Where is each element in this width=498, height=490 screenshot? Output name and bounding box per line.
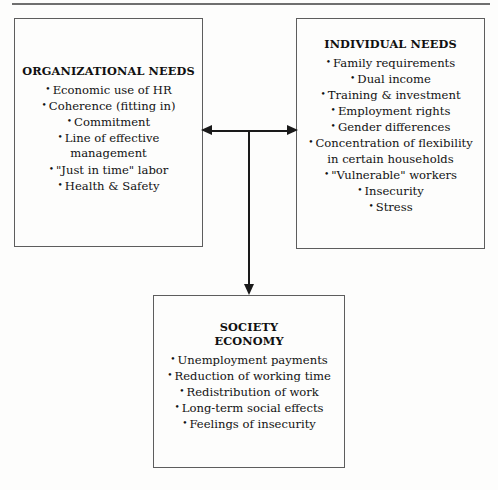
bullet-icon: • xyxy=(58,180,65,190)
list-item: •Long-term social effects xyxy=(154,400,344,416)
box-organizational-content: ORGANIZATIONAL NEEDS •Economic use of HR… xyxy=(15,64,202,194)
arrowhead-left-icon xyxy=(201,125,212,135)
list-item-label: Dual income xyxy=(357,72,431,86)
diagram-canvas: ORGANIZATIONAL NEEDS •Economic use of HR… xyxy=(0,0,498,490)
list-item: •Unemployment payments xyxy=(154,352,344,368)
box-individual-title: INDIVIDUAL NEEDS xyxy=(297,37,484,51)
list-item: •Family requirements xyxy=(297,55,484,71)
list-item-label-continued: in certain households xyxy=(303,152,478,168)
arrowhead-right-icon xyxy=(287,125,298,135)
vertical-connector-line xyxy=(248,131,250,286)
list-item-label: Feelings of insecurity xyxy=(189,417,315,431)
box-society-title: SOCIETY ECONOMY xyxy=(154,320,344,348)
list-item: •Redistribution of work xyxy=(154,384,344,400)
list-item-label: Concentration of flexibility xyxy=(316,136,473,150)
list-item: •Dual income xyxy=(297,71,484,87)
list-item: •Line of effective management xyxy=(15,130,202,162)
list-item: •Commitment xyxy=(15,114,202,130)
arrowhead-down-icon xyxy=(244,284,254,295)
list-item-label: Insecurity xyxy=(365,184,424,198)
bullet-icon: • xyxy=(170,354,177,364)
bullet-icon: • xyxy=(49,164,56,174)
list-item: •Feelings of insecurity xyxy=(154,416,344,432)
list-item-label: Stress xyxy=(376,200,413,214)
list-item-label: Economic use of HR xyxy=(53,83,172,97)
list-item-label: Redistribution of work xyxy=(186,385,318,399)
list-item: •Employment rights xyxy=(297,103,484,119)
box-organizational-title-text: ORGANIZATIONAL NEEDS xyxy=(15,64,202,78)
list-item-label: Family requirements xyxy=(333,56,455,70)
box-organizational-needs: ORGANIZATIONAL NEEDS •Economic use of HR… xyxy=(14,18,203,247)
list-item: •Gender differences xyxy=(297,119,484,135)
bullet-icon: • xyxy=(331,105,338,115)
list-item-label: Long-term social effects xyxy=(182,401,324,415)
box-individual-content: INDIVIDUAL NEEDS •Family requirements •D… xyxy=(297,37,484,215)
box-society-title-line-2: ECONOMY xyxy=(154,334,344,348)
bullet-icon: • xyxy=(331,121,338,131)
list-item: •Health & Safety xyxy=(15,178,202,194)
top-rule-divider xyxy=(12,3,490,5)
list-item-label: Employment rights xyxy=(338,104,451,118)
box-organizational-title: ORGANIZATIONAL NEEDS xyxy=(15,64,202,78)
horizontal-connector-line xyxy=(206,130,294,132)
bullet-icon: • xyxy=(42,100,49,110)
list-item-label: Health & Safety xyxy=(65,179,160,193)
list-item: •Training & investment xyxy=(297,87,484,103)
bullet-icon: • xyxy=(357,185,364,195)
bullet-icon: • xyxy=(45,84,52,94)
bullet-icon: • xyxy=(67,116,74,126)
list-item-label: Reduction of working time xyxy=(174,369,330,383)
box-society-economy: SOCIETY ECONOMY •Unemployment payments •… xyxy=(153,295,345,468)
list-item-label: "Vulnerable" workers xyxy=(331,168,457,182)
bullet-icon: • xyxy=(368,201,375,211)
list-item-label: Coherence (fitting in) xyxy=(49,99,176,113)
box-individual-needs: INDIVIDUAL NEEDS •Family requirements •D… xyxy=(296,18,485,249)
list-item: •Concentration of flexibilityin certain … xyxy=(297,135,484,167)
box-society-content: SOCIETY ECONOMY •Unemployment payments •… xyxy=(154,320,344,432)
list-item-label: "Just in time" labor xyxy=(56,162,168,176)
list-item-label: Training & investment xyxy=(328,88,461,102)
list-item: •Stress xyxy=(297,199,484,215)
list-item: •"Just in time" labor xyxy=(15,162,202,178)
list-item: •Reduction of working time xyxy=(154,368,344,384)
box-individual-item-list: •Family requirements •Dual income •Train… xyxy=(297,55,484,215)
list-item: •"Vulnerable" workers xyxy=(297,167,484,183)
list-item: •Economic use of HR xyxy=(15,82,202,98)
list-item-label: Commitment xyxy=(74,115,150,129)
list-item: •Insecurity xyxy=(297,183,484,199)
box-society-title-line-1: SOCIETY xyxy=(154,320,344,334)
bullet-icon: • xyxy=(320,89,327,99)
bullet-icon: • xyxy=(308,137,315,147)
list-item-label: Gender differences xyxy=(338,120,451,134)
bullet-icon: • xyxy=(174,402,181,412)
list-item: •Coherence (fitting in) xyxy=(15,98,202,114)
box-organizational-item-list: •Economic use of HR •Coherence (fitting … xyxy=(15,82,202,194)
box-society-item-list: •Unemployment payments •Reduction of wor… xyxy=(154,352,344,432)
bullet-icon: • xyxy=(58,132,65,142)
box-individual-title-text: INDIVIDUAL NEEDS xyxy=(297,37,484,51)
list-item-label: Line of effective management xyxy=(65,131,160,161)
bullet-icon: • xyxy=(326,57,333,67)
list-item-label: Unemployment payments xyxy=(178,353,328,367)
